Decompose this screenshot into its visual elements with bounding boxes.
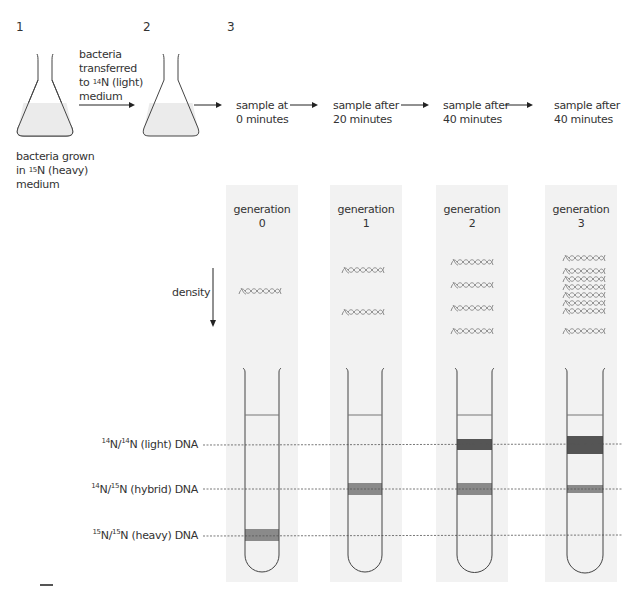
tube-3 — [565, 368, 605, 573]
tube-3-light-band — [567, 436, 603, 454]
tube-0-heavy-band — [245, 529, 279, 541]
tube-2 — [455, 368, 494, 573]
light-level-line — [203, 444, 622, 445]
density-gradient-tubes — [0, 0, 638, 591]
tube-0 — [243, 368, 281, 572]
footer-mark — [40, 584, 53, 586]
tube-1 — [346, 368, 384, 572]
